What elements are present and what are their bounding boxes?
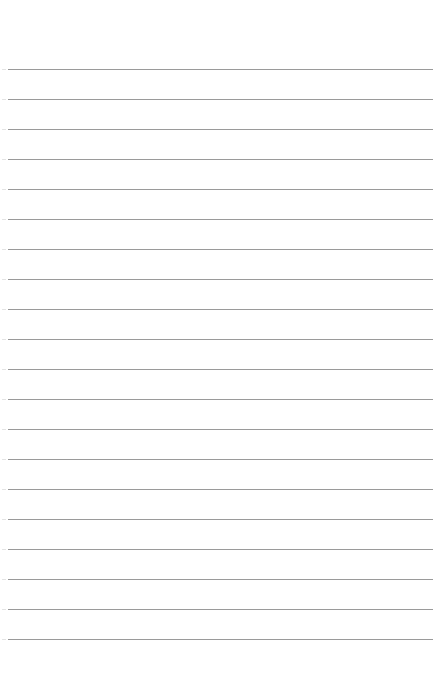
ruled-line	[8, 339, 433, 340]
rule-line-margin-mark	[2, 519, 6, 520]
rule-line-margin-mark	[2, 369, 6, 370]
rule-line-margin-mark	[2, 579, 6, 580]
ruled-line	[8, 279, 433, 280]
ruled-line	[8, 639, 433, 640]
rule-line-margin-mark	[2, 459, 6, 460]
rule-line-margin-mark	[2, 69, 6, 70]
ruled-line	[8, 129, 433, 130]
rule-line-margin-mark	[2, 309, 6, 310]
ruled-notepad-page	[0, 0, 436, 688]
rule-line-margin-mark	[2, 609, 6, 610]
ruled-line	[8, 369, 433, 370]
rule-line-margin-mark	[2, 189, 6, 190]
rule-line-margin-mark	[2, 249, 6, 250]
ruled-line	[8, 219, 433, 220]
rule-line-margin-mark	[2, 639, 6, 640]
rule-line-margin-mark	[2, 159, 6, 160]
ruled-line	[8, 519, 433, 520]
ruled-line	[8, 459, 433, 460]
ruled-line	[8, 489, 433, 490]
ruled-line	[8, 609, 433, 610]
rule-line-margin-mark	[2, 399, 6, 400]
ruled-line	[8, 189, 433, 190]
rule-line-margin-mark	[2, 279, 6, 280]
rule-line-margin-mark	[2, 429, 6, 430]
rule-line-margin-mark	[2, 339, 6, 340]
ruled-line	[8, 99, 433, 100]
ruled-line	[8, 309, 433, 310]
ruled-line	[8, 579, 433, 580]
rule-line-margin-mark	[2, 219, 6, 220]
ruled-line	[8, 249, 433, 250]
ruled-line	[8, 69, 433, 70]
rule-line-margin-mark	[2, 99, 6, 100]
ruled-line	[8, 429, 433, 430]
ruled-line	[8, 159, 433, 160]
rule-line-margin-mark	[2, 489, 6, 490]
ruled-line	[8, 549, 433, 550]
rule-line-margin-mark	[2, 129, 6, 130]
ruled-line	[8, 399, 433, 400]
rule-line-margin-mark	[2, 549, 6, 550]
